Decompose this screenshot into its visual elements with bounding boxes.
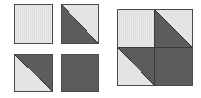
assembled-block: [117, 9, 193, 86]
piece-hst-light-top-right: [61, 4, 99, 44]
block-cell-dark-square: [155, 48, 192, 86]
piece-hst-dark-top-right: [14, 54, 53, 92]
block-cell-hst-light-top-right: [155, 10, 192, 48]
piece-dark-square: [61, 54, 99, 92]
piece-light-square: [14, 4, 53, 44]
block-cell-hst-dark-top-right: [118, 48, 155, 86]
block-cell-light-square: [118, 10, 155, 48]
